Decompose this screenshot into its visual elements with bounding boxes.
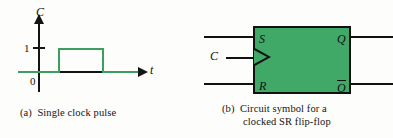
- y-axis-tick-label-high: 1: [24, 43, 30, 54]
- x-axis-label: t: [150, 64, 153, 76]
- y-axis-tick-one: [33, 47, 45, 49]
- wire-clock-input: [226, 57, 253, 59]
- panel-b-caption-line-1: (b) Circuit symbol for a: [222, 102, 327, 115]
- waveform-segment-rising-edge: [58, 48, 60, 73]
- x-axis-arrow-icon: [138, 67, 148, 77]
- panel-a-single-clock-pulse: C t 1 0 (a) Single clock pulse: [0, 0, 196, 138]
- wire-q-output: [351, 36, 393, 38]
- pin-label-q-inverted-text: Q: [337, 80, 346, 94]
- pin-label-reset: R: [259, 80, 266, 92]
- wire-q-inverted-output: [351, 83, 393, 85]
- waveform-segment-high: [58, 48, 104, 50]
- waveform-segment-low-right: [102, 71, 138, 73]
- clock-edge-triangle-fill: [254, 50, 267, 64]
- clock-input-label: C: [210, 50, 218, 62]
- y-axis-line: [38, 22, 40, 92]
- panel-b-caption-line-2: clocked SR flip-flop: [243, 115, 331, 128]
- pin-label-set: S: [259, 33, 265, 45]
- panel-a-caption: (a) Single clock pulse: [20, 106, 116, 119]
- y-axis-tick-label-low: 0: [30, 76, 36, 87]
- wire-set-input: [204, 36, 253, 38]
- pin-label-q-output: Q: [337, 33, 346, 45]
- pin-label-q-inverted-output: Q: [337, 80, 346, 94]
- figure-clock-pulse-and-sr-flip-flop: C t 1 0 (a) Single clock pulse C S R Q: [0, 0, 393, 138]
- panel-b-sr-flip-flop-symbol: C S R Q Q (b) Circuit symbol for a clock…: [196, 0, 393, 138]
- waveform-segment-falling-edge: [102, 48, 104, 73]
- y-axis-label: C: [36, 6, 44, 18]
- wire-reset-input: [204, 83, 253, 85]
- waveform-segment-low-left: [18, 71, 58, 73]
